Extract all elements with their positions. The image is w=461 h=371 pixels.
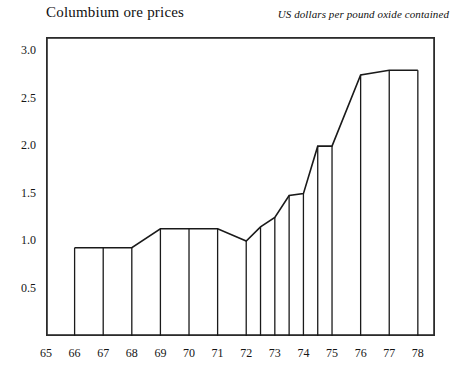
x-axis-tick-label: 74 (290, 346, 316, 361)
chart-plot-svg (46, 37, 435, 336)
x-axis-tick-label: 69 (147, 346, 173, 361)
x-axis-tick-label: 71 (205, 346, 231, 361)
x-axis-tick-label: 78 (405, 346, 431, 361)
x-axis-tick-label: 67 (90, 346, 116, 361)
y-axis-tick-label: 2.5 (2, 91, 36, 106)
y-axis-tick-label: 2.0 (2, 138, 36, 153)
chart-title: Columbium ore prices (46, 4, 184, 21)
chart-container: Columbium ore prices US dollars per poun… (0, 0, 461, 371)
x-axis-tick-label: 65 (33, 346, 59, 361)
x-axis-tick-label: 75 (319, 346, 345, 361)
x-axis-tick-label: 76 (348, 346, 374, 361)
x-axis-tick-label: 68 (119, 346, 145, 361)
plot-frame (47, 38, 434, 335)
x-axis-tick-label: 77 (376, 346, 402, 361)
y-axis-tick-label: 0.5 (2, 281, 36, 296)
y-axis-tick-label: 1.5 (2, 186, 36, 201)
x-axis-tick-label: 70 (176, 346, 202, 361)
y-axis-tick-label: 1.0 (2, 233, 36, 248)
x-axis-tick-label: 66 (62, 346, 88, 361)
data-line (75, 70, 418, 248)
y-axis-tick-label: 3.0 (2, 43, 36, 58)
x-axis-tick-label: 72 (233, 346, 259, 361)
x-axis-tick-label: 73 (262, 346, 288, 361)
plot-area (46, 37, 435, 336)
chart-subtitle: US dollars per pound oxide contained (278, 8, 449, 20)
